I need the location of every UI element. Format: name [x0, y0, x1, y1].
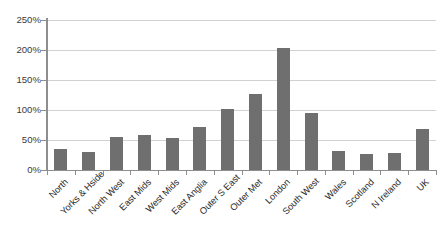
bar — [221, 109, 234, 170]
x-axis-tick-mark — [297, 170, 298, 175]
bar-chart: 0%50%100%150%200%250% NorthYorks & Hside… — [0, 0, 444, 243]
x-axis-tick-mark — [325, 170, 326, 175]
y-axis-tick-label: 200% — [0, 44, 41, 55]
bar — [54, 149, 67, 170]
bar — [332, 151, 345, 170]
bar — [360, 154, 373, 170]
bar — [166, 138, 179, 170]
x-axis-tick-mark — [380, 170, 381, 175]
y-axis-tick-label: 250% — [0, 14, 41, 25]
x-axis-tick-mark — [158, 170, 159, 175]
bar — [82, 152, 95, 170]
x-axis-tick-mark — [75, 170, 76, 175]
x-axis-tick-mark — [214, 170, 215, 175]
y-axis-tick-label: 50% — [0, 134, 41, 145]
bar — [277, 48, 290, 170]
y-axis-tick-label: 100% — [0, 104, 41, 115]
y-axis-tick-label: 150% — [0, 74, 41, 85]
x-axis-tick-mark — [186, 170, 187, 175]
bar — [416, 129, 429, 170]
y-axis-line — [46, 18, 48, 171]
y-axis-tick-label: 0% — [0, 164, 41, 175]
x-axis-tick-mark — [408, 170, 409, 175]
x-axis-tick-mark — [47, 170, 48, 175]
bar — [193, 127, 206, 170]
x-axis-tick-mark — [269, 170, 270, 175]
bar — [388, 153, 401, 170]
x-axis-tick-mark — [436, 170, 437, 175]
bar — [110, 137, 123, 170]
x-axis-tick-mark — [130, 170, 131, 175]
x-axis-tick-mark — [353, 170, 354, 175]
bar — [305, 113, 318, 170]
bars-series — [47, 20, 436, 170]
bar — [249, 94, 262, 170]
x-axis-tick-mark — [242, 170, 243, 175]
bar — [138, 135, 151, 170]
